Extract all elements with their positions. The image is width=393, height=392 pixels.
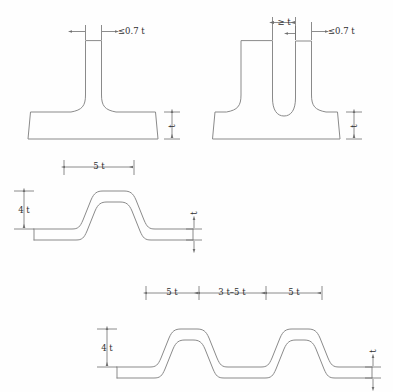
tee-double-outline — [213, 41, 341, 139]
hat2-crown-spacing-label: 3 t–5 t — [218, 287, 246, 297]
hat-double-outer — [117, 329, 372, 367]
tee-single-outline — [28, 41, 158, 139]
hat2-thickness-label: t — [368, 349, 378, 353]
hat2-height-label: 4 t — [101, 343, 113, 353]
tee2-web-thickness-label: ≤0.7 t — [328, 26, 355, 36]
hat1-height-label: 4 t — [18, 205, 30, 215]
hat-double-inner — [117, 340, 372, 378]
diagram-canvas: ≤0.7 t t ≥ t ≤0.7 t t — [0, 0, 393, 392]
figure-single-web-tee: ≤0.7 t t — [28, 25, 180, 139]
hat-single-outer — [34, 191, 193, 229]
tee1-web-thickness-label: ≤0.7 t — [118, 26, 145, 36]
hat2-crown-left-label: 5 t — [166, 287, 178, 297]
hat2-crown-right-label: 5 t — [288, 287, 300, 297]
hat1-thickness-label: t — [189, 211, 199, 215]
stiffener-proportions-diagram: ≤0.7 t t ≥ t ≤0.7 t t — [0, 0, 393, 392]
figure-double-hat: 5 t 3 t–5 t 5 t 4 t t — [97, 286, 381, 387]
hat1-crown-width-label: 5 t — [93, 161, 105, 171]
figure-single-hat: 5 t 4 t t — [14, 160, 202, 249]
tee2-web-gap-label: ≥ t — [277, 17, 291, 27]
figure-double-web-tee: ≥ t ≤0.7 t t — [213, 17, 363, 140]
tee2-flange-thickness-label: t — [349, 124, 359, 128]
tee1-flange-thickness-label: t — [167, 124, 177, 128]
hat-single-inner — [34, 202, 193, 240]
